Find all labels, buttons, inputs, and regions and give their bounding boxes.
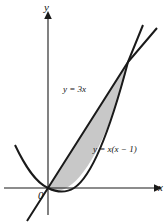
line-curve bbox=[27, 25, 143, 221]
x-axis-label: x bbox=[158, 182, 163, 193]
line-equation-label: y = 3x bbox=[63, 85, 86, 94]
figure-container: y x 0 y = 3x y = x(x − 1) bbox=[0, 0, 168, 223]
y-axis-label: y bbox=[44, 2, 49, 13]
parabola-equation-label: y = x(x − 1) bbox=[93, 145, 137, 154]
graph-plot bbox=[0, 0, 168, 223]
origin-label: 0 bbox=[38, 190, 44, 201]
